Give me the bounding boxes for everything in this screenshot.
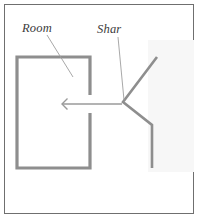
figure-root: Room Shar [0,0,199,219]
label-shar: Shar [97,22,121,36]
shar-leader-line [118,37,124,100]
label-room: Room [21,21,52,35]
incident-direction-arrow [62,99,122,110]
room-outline [17,57,90,168]
room-walls [17,57,90,168]
diagram-canvas: Room Shar [0,0,199,219]
